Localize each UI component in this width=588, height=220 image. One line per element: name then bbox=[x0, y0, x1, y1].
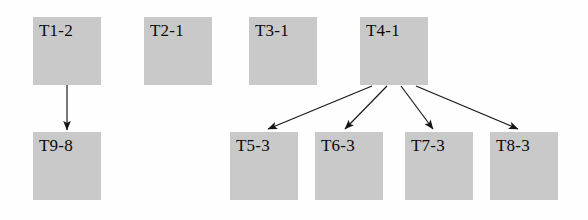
node-t5-3[interactable]: T5-3 bbox=[230, 132, 298, 200]
edge-t4-1-to-t5-3 bbox=[268, 86, 372, 129]
node-t4-1[interactable]: T4-1 bbox=[360, 17, 428, 85]
edge-t4-1-to-t6-3 bbox=[345, 86, 387, 129]
node-t8-3[interactable]: T8-3 bbox=[490, 132, 558, 200]
node-label: T2-1 bbox=[150, 22, 212, 39]
node-label: T9-8 bbox=[39, 137, 101, 154]
node-t7-3[interactable]: T7-3 bbox=[405, 132, 473, 200]
node-t2-1[interactable]: T2-1 bbox=[144, 17, 212, 85]
node-label: T4-1 bbox=[366, 22, 428, 39]
node-t6-3[interactable]: T6-3 bbox=[315, 132, 383, 200]
node-t3-1[interactable]: T3-1 bbox=[249, 17, 317, 85]
node-label: T3-1 bbox=[255, 22, 317, 39]
edge-t4-1-to-t7-3 bbox=[401, 86, 433, 129]
node-t1-2[interactable]: T1-2 bbox=[33, 17, 101, 85]
node-label: T1-2 bbox=[39, 22, 101, 39]
node-label: T5-3 bbox=[236, 137, 298, 154]
edges-group bbox=[67, 85, 518, 130]
node-label: T8-3 bbox=[496, 137, 558, 154]
node-t9-8[interactable]: T9-8 bbox=[33, 132, 101, 200]
node-label: T7-3 bbox=[411, 137, 473, 154]
node-label: T6-3 bbox=[321, 137, 383, 154]
edge-t4-1-to-t8-3 bbox=[416, 86, 518, 129]
task-dependency-diagram: T1-2 T2-1 T3-1 T4-1 T9-8 T5-3 T6-3 T7-3 … bbox=[0, 0, 588, 220]
